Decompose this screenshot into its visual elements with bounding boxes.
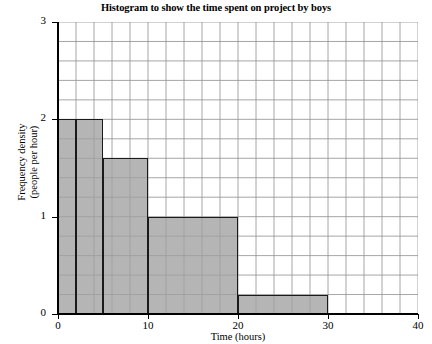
- bar-series: [58, 22, 418, 314]
- y-axis-title-wrap: Frequency density (people per hour): [0, 0, 60, 344]
- y-axis-title-line2: (people per hour): [28, 77, 40, 247]
- x-tick-label: 40: [398, 319, 432, 331]
- x-axis-title: Time (hours): [58, 331, 418, 342]
- x-tick-label: 20: [218, 319, 258, 331]
- histogram-bar: [76, 119, 103, 314]
- histogram-bar: [58, 119, 76, 314]
- x-tick-label: 10: [128, 319, 168, 331]
- y-tick-mark: [52, 22, 58, 23]
- histogram-bar: [238, 295, 328, 314]
- y-axis-title-line1: Frequency density: [16, 77, 28, 247]
- histogram-figure: Histogram to show the time spent on proj…: [0, 0, 432, 344]
- chart-title: Histogram to show the time spent on proj…: [0, 2, 432, 13]
- histogram-bar: [148, 217, 238, 314]
- y-tick-mark: [52, 314, 58, 315]
- y-axis-title: Frequency density (people per hour): [16, 77, 40, 247]
- y-tick-mark: [52, 217, 58, 218]
- y-tick-mark: [52, 119, 58, 120]
- x-tick-label: 30: [308, 319, 348, 331]
- plot-area: [58, 22, 418, 314]
- histogram-bar: [103, 158, 148, 314]
